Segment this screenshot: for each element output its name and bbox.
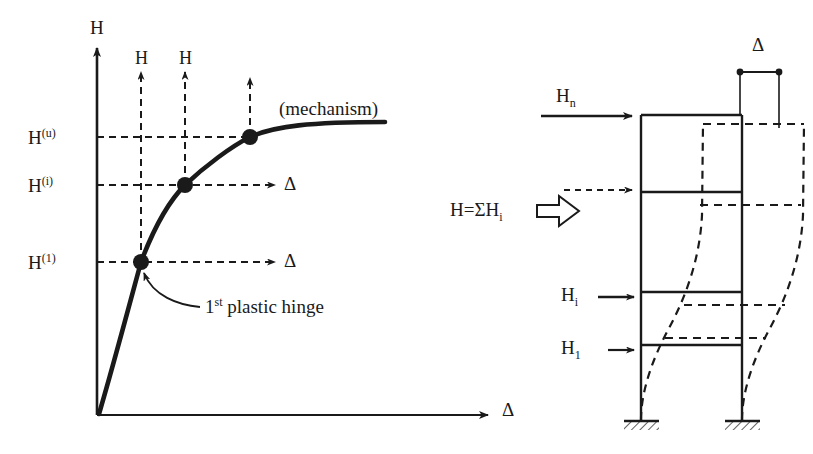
resultant-force-label: H=ΣHi — [450, 200, 503, 223]
figure-vector-layer — [0, 0, 813, 454]
displacement-dimension-label: Δ — [752, 35, 764, 54]
level-label-ultimate-sup: (u) — [42, 126, 56, 140]
story-force-label-1: H1 — [561, 338, 581, 361]
support-left — [624, 421, 659, 430]
top-force-label-sub: n — [570, 96, 576, 110]
top-force-label: Hn — [556, 86, 576, 109]
level-label-ultimate-base: H — [28, 127, 42, 148]
level-label-intermediate-base: H — [28, 175, 42, 196]
level-label-first-base: H — [28, 252, 42, 273]
resultant-force-label-sub: i — [499, 210, 502, 224]
hinge-annotation-rest: plastic hinge — [223, 296, 324, 317]
displacement-dimension — [737, 69, 783, 128]
story-force-label-i-base: H — [561, 284, 575, 305]
curve-markers — [133, 129, 258, 270]
step-force-label-2: H — [179, 49, 192, 67]
hinge-callout-leader — [144, 273, 200, 307]
resultant-block-arrow — [537, 196, 579, 226]
frame-load-arrows — [537, 116, 634, 350]
story-force-label-1-base: H — [561, 337, 575, 358]
frame-supports — [624, 421, 760, 430]
level-label-intermediate: H(i) — [28, 175, 53, 195]
level-label-intermediate-sup: (i) — [42, 174, 53, 188]
top-force-label-base: H — [556, 85, 570, 106]
story-force-label-1-sub: 1 — [575, 348, 581, 362]
hinge-callout — [144, 273, 200, 307]
x-axis-label: Δ — [502, 400, 514, 419]
marker-first-hinge — [133, 254, 149, 270]
deformed-column-right — [742, 124, 804, 420]
frame-deformed — [641, 124, 804, 420]
story-force-label-i-sub: i — [575, 295, 578, 309]
hinge-annotation-sup: st — [215, 295, 223, 309]
deformed-column-left — [641, 124, 703, 420]
plot-guide-lines — [97, 72, 275, 262]
level-label-first-sup: (1) — [42, 251, 56, 265]
pushover-figure: H Δ H(u) H(i) H(1) H H Δ Δ (mechanism) 1… — [0, 0, 813, 454]
frame-undeformed — [641, 115, 742, 420]
y-axis-label: H — [90, 18, 104, 37]
resultant-force-label-base: H=ΣH — [450, 199, 499, 220]
marker-intermediate — [177, 177, 193, 193]
mechanism-annotation: (mechanism) — [279, 99, 378, 118]
story-force-label-i: Hi — [561, 285, 578, 308]
drift-arrow-label-2: Δ — [284, 251, 296, 270]
first-plastic-hinge-annotation: 1st plastic hinge — [205, 296, 324, 316]
marker-mechanism — [242, 129, 258, 145]
step-force-label-1: H — [135, 49, 148, 67]
support-right — [725, 421, 760, 430]
level-label-ultimate: H(u) — [28, 127, 56, 147]
hinge-annotation-prefix: 1 — [205, 296, 215, 317]
level-label-first: H(1) — [28, 252, 56, 272]
drift-arrow-label-1: Δ — [284, 174, 296, 193]
